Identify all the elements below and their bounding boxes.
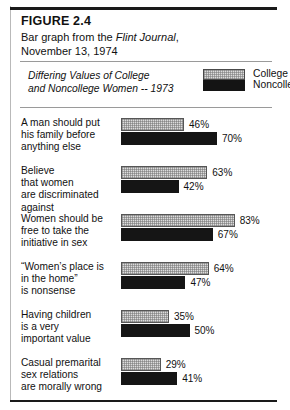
bar-group: “Women’s place is in the home” is nonsen… [0,261,290,309]
bar-college [121,358,161,371]
label-line: important value [21,333,116,345]
figure-number: FIGURE 2.4 [21,14,261,29]
bar-row-noncollege: 41% [121,372,286,385]
bar-group: Believe that women are discriminated aga… [0,165,290,213]
bar-value-noncollege: 67% [218,228,238,241]
label-line: is nonsense [21,285,116,297]
bar-row-college: 83% [121,214,286,227]
divider-rule-under-legend [20,107,272,108]
figure-caption: Bar graph from the Flint Journal, Novemb… [21,31,261,58]
label-line: initiative in sex [21,237,116,249]
bar-group-label: Casual premarital sex relations are mora… [21,357,116,394]
label-line: against [21,202,116,214]
label-line: are discriminated [21,189,116,201]
bar-college [121,262,209,275]
chart-title-line-1: Differing Values of College [28,69,193,82]
chart-legend: College Noncollege [203,69,283,91]
bar-group-label: A man should put his family before anyth… [21,117,116,154]
bar-row-noncollege: 67% [121,228,286,241]
bar-row-college: 29% [121,358,286,371]
bar-noncollege [121,276,185,289]
bar-pair: 46% 70% [121,118,286,146]
label-line: his family before [21,129,116,141]
bar-value-college: 46% [189,118,209,131]
bar-value-college: 29% [166,358,186,371]
chart-title-line-2: and Noncollege Women -- 1973 [28,82,193,95]
label-line: are morally wrong [21,381,116,393]
bar-college [121,214,235,227]
top-divider-rule [10,7,277,10]
label-line: Casual premarital [21,357,116,369]
bar-value-college: 83% [240,214,260,227]
bar-group-label: “Women’s place is in the home” is nonsen… [21,261,116,298]
label-line: Believe [21,165,116,177]
bar-row-noncollege: 47% [121,276,286,289]
bar-pair: 64% 47% [121,262,286,290]
bar-row-college: 63% [121,166,286,179]
bar-value-college: 64% [214,262,234,275]
figure-header: FIGURE 2.4 Bar graph from the Flint Jour… [21,14,261,58]
label-line: is a very [21,321,116,333]
bar-group: Casual premarital sex relations are mora… [0,357,290,405]
chart-title: Differing Values of College and Noncolle… [28,69,193,95]
label-line: A man should put [21,117,116,129]
bar-row-college: 64% [121,262,286,275]
bar-college [121,310,169,323]
label-line: free to take the [21,225,116,237]
bar-college [121,118,184,131]
bar-value-noncollege: 47% [190,276,210,289]
label-line: sex relations [21,369,116,381]
bar-value-noncollege: 41% [182,372,202,385]
bar-pair: 63% 42% [121,166,286,194]
legend-item-noncollege: Noncollege [203,80,283,91]
bar-group: Women should be free to take the initiat… [0,213,290,261]
bar-group: Having children is a very important valu… [0,309,290,357]
caption-source-title: Flint Journal [116,31,176,43]
bar-row-noncollege: 42% [121,180,286,193]
figure-panel: FIGURE 2.4 Bar graph from the Flint Jour… [0,0,290,410]
bar-value-noncollege: 50% [195,324,215,337]
bar-noncollege [121,228,213,241]
label-line: that women [21,177,116,189]
label-line: Women should be [21,213,116,225]
bar-chart-plot-area: A man should put his family before anyth… [0,117,290,405]
caption-tail-text: , [176,31,179,43]
bar-noncollege [121,372,177,385]
bar-noncollege [121,132,217,145]
divider-rule-under-caption [20,61,272,62]
legend-swatch-noncollege-icon [203,80,245,91]
caption-date: November 13, 1974 [21,45,118,57]
legend-swatch-college-icon [203,69,245,80]
bar-pair: 83% 67% [121,214,286,242]
bar-row-noncollege: 50% [121,324,286,337]
bar-group-label: Women should be free to take the initiat… [21,213,116,250]
bar-group: A man should put his family before anyth… [0,117,290,165]
bar-row-college: 46% [121,118,286,131]
bar-noncollege [121,324,190,337]
label-line: anything else [21,141,116,153]
bar-value-noncollege: 70% [222,132,242,145]
bar-noncollege [121,180,179,193]
bar-value-college: 35% [174,310,194,323]
bar-row-noncollege: 70% [121,132,286,145]
label-line: “Women’s place is [21,261,116,273]
caption-lead-text: Bar graph from the [21,31,116,43]
bar-pair: 29% 41% [121,358,286,386]
bar-group-label: Believe that women are discriminated aga… [21,165,116,214]
bar-college [121,166,207,179]
bar-value-noncollege: 42% [184,180,204,193]
bar-value-college: 63% [212,166,232,179]
label-line: Having children [21,309,116,321]
bar-row-college: 35% [121,310,286,323]
legend-label-noncollege: Noncollege [253,79,290,91]
bar-pair: 35% 50% [121,310,286,338]
bar-group-label: Having children is a very important valu… [21,309,116,346]
label-line: in the home” [21,273,116,285]
